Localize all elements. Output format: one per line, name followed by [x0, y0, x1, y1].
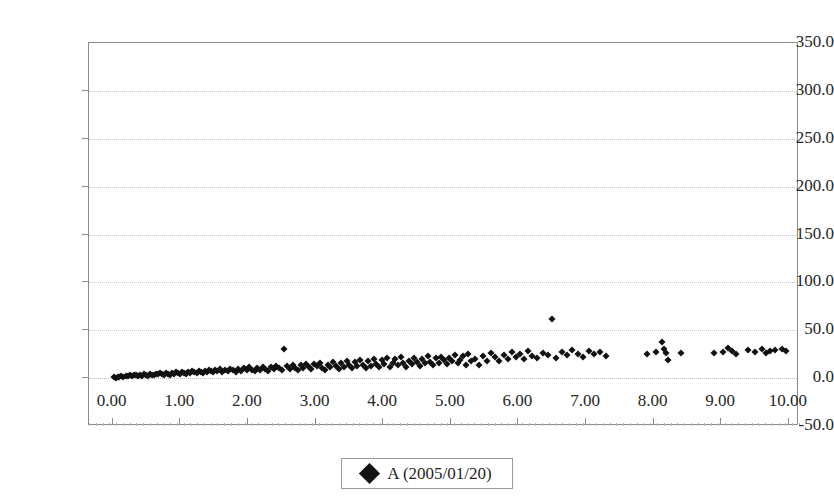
x-minor-tick: [495, 423, 496, 426]
data-point: [553, 355, 560, 362]
y-tick-label: 150.0: [758, 225, 834, 242]
x-minor-tick: [529, 423, 530, 426]
x-minor-tick: [420, 423, 421, 426]
x-tick-label: 7.00: [570, 392, 600, 409]
x-minor-tick: [549, 423, 550, 426]
x-tick-mark: [720, 418, 721, 425]
x-minor-tick: [468, 423, 469, 426]
legend-entry-label: A (2005/01/20): [387, 465, 491, 482]
x-minor-tick: [265, 423, 266, 426]
x-minor-tick: [272, 423, 273, 426]
x-minor-tick: [373, 423, 374, 426]
data-point: [658, 338, 665, 345]
scatter-chart: 350.0300.0250.0200.0150.0100.050.00.0-50…: [0, 0, 834, 498]
gridline: [89, 330, 797, 331]
x-minor-tick: [366, 423, 367, 426]
data-point: [580, 353, 587, 360]
y-tick-mark: [82, 281, 88, 282]
x-minor-tick: [136, 423, 137, 426]
x-minor-tick: [387, 423, 388, 426]
y-tick-label: 300.0: [758, 81, 834, 98]
x-minor-tick: [488, 423, 489, 426]
x-minor-tick: [130, 423, 131, 426]
x-minor-tick: [664, 423, 665, 426]
y-tick-mark: [82, 377, 88, 378]
x-tick-mark: [315, 418, 316, 425]
x-tick-label: 2.00: [232, 392, 262, 409]
x-minor-tick: [522, 423, 523, 426]
x-minor-tick: [508, 423, 509, 426]
x-minor-tick: [556, 423, 557, 426]
x-minor-tick: [643, 423, 644, 426]
x-tick-label: 8.00: [638, 392, 668, 409]
data-point: [281, 346, 288, 353]
x-minor-tick: [441, 423, 442, 426]
x-minor-tick: [339, 423, 340, 426]
data-point: [504, 355, 511, 362]
x-tick-label: 3.00: [300, 392, 330, 409]
x-minor-tick: [698, 423, 699, 426]
x-minor-tick: [576, 423, 577, 426]
x-tick-mark: [112, 418, 113, 425]
y-tick-label: 200.0: [758, 177, 834, 194]
data-point: [484, 358, 491, 365]
x-minor-tick: [305, 423, 306, 426]
x-minor-tick: [143, 423, 144, 426]
y-tick-mark: [82, 90, 88, 91]
data-point: [711, 349, 718, 356]
x-minor-tick: [150, 423, 151, 426]
x-minor-tick: [704, 423, 705, 426]
x-minor-tick: [238, 423, 239, 426]
x-minor-tick: [454, 423, 455, 426]
x-minor-tick: [251, 423, 252, 426]
data-point: [496, 357, 503, 364]
x-minor-tick: [116, 423, 117, 426]
x-minor-tick: [224, 423, 225, 426]
x-tick-label: 1.00: [164, 392, 194, 409]
x-minor-tick: [400, 423, 401, 426]
x-minor-tick: [332, 423, 333, 426]
x-minor-tick: [474, 423, 475, 426]
x-minor-tick: [163, 423, 164, 426]
y-tick-mark: [82, 329, 88, 330]
y-tick-label: -50.0: [758, 416, 834, 433]
x-minor-tick: [583, 423, 584, 426]
x-minor-tick: [190, 423, 191, 426]
x-minor-tick: [461, 423, 462, 426]
x-tick-label: 5.00: [435, 392, 465, 409]
data-point: [783, 348, 790, 355]
x-minor-tick: [245, 423, 246, 426]
x-minor-tick: [725, 423, 726, 426]
x-tick-label: 6.00: [503, 392, 533, 409]
data-point: [476, 361, 483, 368]
x-minor-tick: [184, 423, 185, 426]
diamond-marker-icon: [359, 463, 380, 484]
x-minor-tick: [650, 423, 651, 426]
x-minor-tick: [562, 423, 563, 426]
data-point: [653, 349, 660, 356]
x-minor-tick: [542, 423, 543, 426]
x-minor-tick: [177, 423, 178, 426]
x-minor-tick: [731, 423, 732, 426]
x-minor-tick: [677, 423, 678, 426]
x-minor-tick: [204, 423, 205, 426]
x-minor-tick: [407, 423, 408, 426]
y-tick-label: 0.0: [758, 368, 834, 385]
plot-area: [88, 42, 798, 425]
x-minor-tick: [123, 423, 124, 426]
x-minor-tick: [711, 423, 712, 426]
x-minor-tick: [217, 423, 218, 426]
x-tick-label: 9.00: [705, 392, 735, 409]
x-tick-mark: [382, 418, 383, 425]
x-minor-tick: [671, 423, 672, 426]
zero-baseline: [89, 378, 797, 379]
x-minor-tick: [535, 423, 536, 426]
x-minor-tick: [745, 423, 746, 426]
x-minor-tick: [299, 423, 300, 426]
gridline: [89, 139, 797, 140]
x-minor-tick: [103, 423, 104, 426]
data-point: [745, 346, 752, 353]
x-minor-tick: [312, 423, 313, 426]
x-minor-tick: [501, 423, 502, 426]
x-minor-tick: [596, 423, 597, 426]
